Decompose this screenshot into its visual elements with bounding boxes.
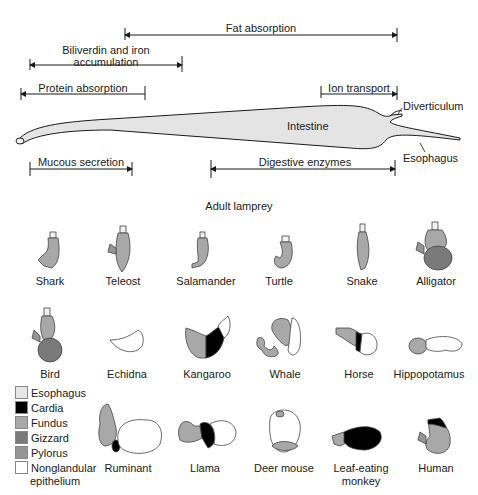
legend-label: Gizzard <box>31 432 69 444</box>
legend-label: Pylorus <box>31 447 68 459</box>
species-label-line1: Leaf-eating <box>333 462 388 474</box>
legend-label: Fundus <box>31 417 68 429</box>
species-label: Whale <box>269 368 300 380</box>
swatch <box>15 461 28 474</box>
legend-item-cardia: Cardia <box>15 400 96 415</box>
legend-item-esophagus: Esophagus <box>15 385 96 400</box>
legend-item-nonglandular: Nonglandular <box>15 460 96 475</box>
species-label: Turtle <box>265 275 293 287</box>
swatch <box>15 431 28 444</box>
legend-label: Nonglandular <box>31 462 96 474</box>
legend-item-gizzard: Gizzard <box>15 430 96 445</box>
label-protein-absorption: Protein absorption <box>38 82 127 94</box>
species-label: Kangaroo <box>183 368 231 380</box>
swatch <box>15 416 28 429</box>
label-esophagus: Esophagus <box>403 152 458 164</box>
species-label-line2: monkey <box>342 475 381 487</box>
swatch <box>15 386 28 399</box>
label-biliverdin-line1: Biliverdin and iron <box>62 44 149 56</box>
species-label: Llama <box>190 462 220 474</box>
stomach-shapes <box>32 222 462 453</box>
species-label: Echidna <box>107 368 147 380</box>
label-mucous-secretion: Mucous secretion <box>38 156 124 168</box>
label-biliverdin-line2: accumulation <box>74 56 139 68</box>
label-ion-transport: Ion transport <box>328 82 390 94</box>
legend: Esophagus Cardia Fundus Gizzard Pylorus … <box>15 385 96 490</box>
legend-item-fundus: Fundus <box>15 415 96 430</box>
species-label: Snake <box>346 275 377 287</box>
species-label: Human <box>418 462 453 474</box>
species-label: Shark <box>36 275 65 287</box>
lamprey-title: Adult lamprey <box>205 200 272 212</box>
species-label: Ruminant <box>104 462 151 474</box>
label-digestive-enzymes: Digestive enzymes <box>259 156 351 168</box>
lamprey-intestine <box>18 105 460 148</box>
species-label: Bird <box>40 368 60 380</box>
species-label: Salamander <box>176 275 235 287</box>
legend-item-pylorus: Pylorus <box>15 445 96 460</box>
swatch <box>15 446 28 459</box>
species-label: Teleost <box>106 275 141 287</box>
legend-label: Cardia <box>31 402 63 414</box>
label-intestine: Intestine <box>287 120 329 132</box>
legend-label-continuation: epithelium <box>15 475 96 490</box>
species-label: Deer mouse <box>254 462 314 474</box>
label-diverticulum: Diverticulum <box>403 100 464 112</box>
species-label: Hippopotamus <box>394 368 465 380</box>
swatch <box>15 401 28 414</box>
label-fat-absorption: Fat absorption <box>226 22 296 34</box>
species-label: Horse <box>344 368 373 380</box>
species-label: Alligator <box>416 275 456 287</box>
legend-label: Esophagus <box>31 387 86 399</box>
